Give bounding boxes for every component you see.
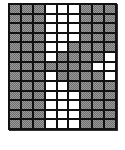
grid-cell-filled (93, 53, 103, 61)
grid-cell-filled (81, 72, 91, 80)
grid-cell-empty (46, 72, 56, 80)
grid-cell-filled (10, 92, 20, 100)
cell-grid (8, 3, 117, 130)
grid-cell-empty (69, 111, 79, 119)
grid-cell-filled (93, 111, 103, 119)
grid-cell-empty (105, 63, 115, 71)
grid-cell-filled (81, 111, 91, 119)
grid-cell-filled (81, 43, 91, 51)
grid-cell-empty (46, 82, 56, 90)
grid-cell-empty (58, 82, 68, 90)
grid-cell-filled (46, 63, 56, 71)
grid-cell-filled (10, 72, 20, 80)
grid-cell-filled (34, 53, 44, 61)
grid-cell-filled (105, 34, 115, 42)
grid-cell-filled (34, 101, 44, 109)
grid-cell-filled (93, 92, 103, 100)
grid-cell-filled (34, 120, 44, 128)
grid-cell-filled (93, 82, 103, 90)
grid-cell-filled (10, 120, 20, 128)
grid-cell-filled (34, 82, 44, 90)
grid-cell-filled (10, 5, 20, 13)
grid-cell-filled (58, 72, 68, 80)
grid-cell-filled (10, 82, 20, 90)
grid-cell-filled (69, 72, 79, 80)
grid-cell-filled (81, 63, 91, 71)
grid-cell-filled (81, 120, 91, 128)
grid-cell-empty (105, 53, 115, 61)
grid-cell-filled (34, 34, 44, 42)
grid-cell-empty (58, 120, 68, 128)
grid-cell-filled (34, 92, 44, 100)
grid-cell-filled (105, 92, 115, 100)
grid-cell-filled (69, 63, 79, 71)
grid-cell-filled (81, 82, 91, 90)
grid-cell-filled (10, 111, 20, 119)
grid-cell-filled (69, 43, 79, 51)
grid-cell-filled (22, 63, 32, 71)
grid-cell-empty (46, 34, 56, 42)
grid-cell-filled (34, 5, 44, 13)
grid-cell-filled (22, 120, 32, 128)
grid-cell-filled (105, 24, 115, 32)
grid-cell-empty (69, 120, 79, 128)
grid-cell-filled (69, 53, 79, 61)
grid-cell-empty (58, 34, 68, 42)
grid-cell-filled (34, 72, 44, 80)
grid-cell-filled (22, 43, 32, 51)
grid-cell-filled (34, 24, 44, 32)
grid-cell-empty (69, 92, 79, 100)
grid-cell-filled (10, 15, 20, 23)
grid-cell-filled (58, 53, 68, 61)
grid-cell-filled (93, 34, 103, 42)
grid-cell-filled (93, 72, 103, 80)
grid-cell-filled (34, 43, 44, 51)
grid-cell-filled (105, 43, 115, 51)
grid-cell-filled (22, 15, 32, 23)
grid-cell-filled (22, 5, 32, 13)
grid-cell-empty (69, 15, 79, 23)
grid-cell-filled (105, 101, 115, 109)
grid-cell-filled (93, 24, 103, 32)
grid-cell-empty (46, 120, 56, 128)
grid-cell-filled (22, 53, 32, 61)
grid-cell-filled (105, 82, 115, 90)
grid-cell-filled (22, 34, 32, 42)
grid-cell-empty (46, 15, 56, 23)
grid-cell-empty (93, 63, 103, 71)
grid-cell-filled (10, 43, 20, 51)
grid-cell-filled (81, 15, 91, 23)
grid-cell-empty (58, 24, 68, 32)
grid-cell-empty (69, 101, 79, 109)
grid-cell-filled (10, 53, 20, 61)
grid-cell-empty (69, 34, 79, 42)
grid-cell-filled (22, 92, 32, 100)
grid-cell-empty (46, 53, 56, 61)
grid-cell-filled (10, 63, 20, 71)
grid-cell-filled (81, 5, 91, 13)
grid-cell-empty (58, 111, 68, 119)
grid-cell-empty (46, 5, 56, 13)
grid-cell-filled (22, 72, 32, 80)
grid-cell-empty (69, 24, 79, 32)
grid-cell-filled (105, 120, 115, 128)
grid-cell-filled (34, 111, 44, 119)
grid-cell-filled (34, 15, 44, 23)
grid-cell-filled (34, 63, 44, 71)
grid-cell-empty (105, 72, 115, 80)
grid-cell-empty (46, 101, 56, 109)
grid-cell-filled (22, 82, 32, 90)
grid-cell-empty (69, 5, 79, 13)
grid-cell-empty (46, 43, 56, 51)
grid-cell-filled (81, 34, 91, 42)
grid-cell-filled (22, 101, 32, 109)
grid-cell-filled (10, 101, 20, 109)
grid-cell-filled (58, 63, 68, 71)
grid-cell-empty (46, 92, 56, 100)
grid-cell-filled (105, 111, 115, 119)
grid-cell-filled (93, 101, 103, 109)
grid-cell-filled (10, 34, 20, 42)
grid-cell-filled (93, 15, 103, 23)
grid-cell-empty (58, 5, 68, 13)
grid-cell-empty (58, 92, 68, 100)
